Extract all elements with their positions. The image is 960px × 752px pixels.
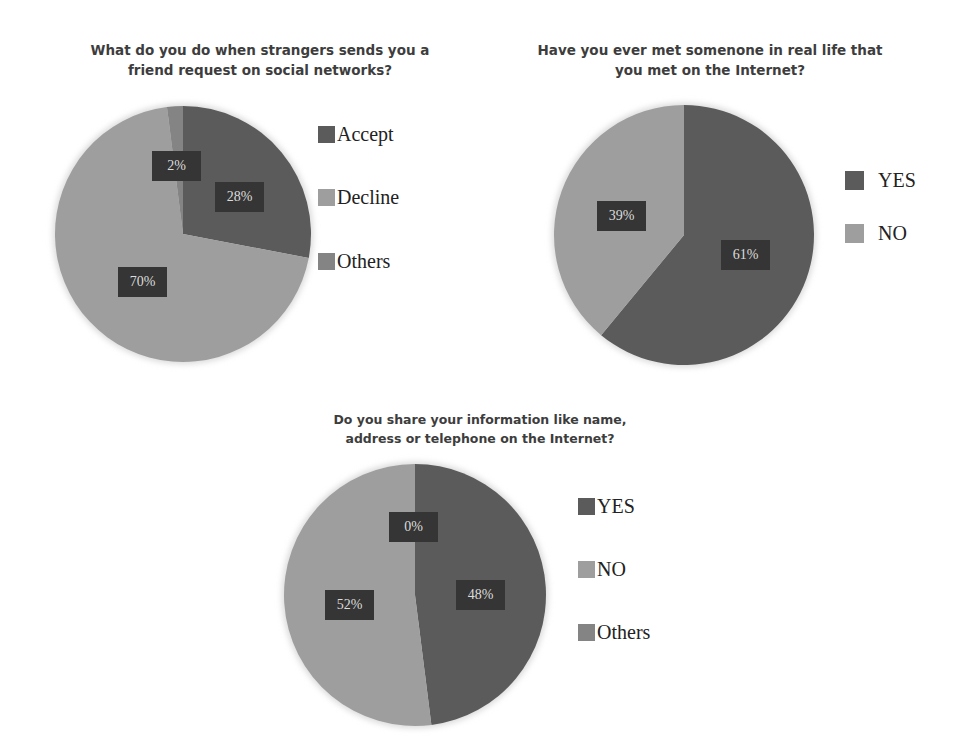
legend-label: Others bbox=[337, 250, 390, 273]
legend-swatch bbox=[318, 253, 335, 270]
data-label-decline: 70% bbox=[118, 267, 167, 297]
pie-slices bbox=[284, 464, 546, 726]
title-line: Do you share your information like name, bbox=[300, 410, 660, 429]
legend-item-others: Others bbox=[318, 250, 390, 273]
legend-swatch bbox=[318, 126, 335, 143]
data-label-others: 0% bbox=[389, 512, 438, 542]
legend-item-others: Others bbox=[578, 621, 650, 644]
title-line: Have you ever met somenone in real life … bbox=[500, 40, 920, 60]
legend-swatch bbox=[578, 498, 595, 515]
title-line: you met on the Internet? bbox=[500, 60, 920, 80]
legend-label: Accept bbox=[337, 123, 394, 146]
legend-item-accept: Accept bbox=[318, 123, 394, 146]
legend-item-no: NO bbox=[845, 222, 907, 245]
data-label-yes: 61% bbox=[721, 240, 770, 270]
legend-label: YES bbox=[878, 169, 916, 192]
legend-label: Others bbox=[597, 621, 650, 644]
pie-slices bbox=[554, 105, 814, 365]
pie-svg bbox=[0, 0, 960, 752]
legend-label: YES bbox=[597, 495, 635, 518]
legend-label: NO bbox=[597, 558, 626, 581]
data-label-others: 2% bbox=[152, 151, 201, 181]
legend-item-decline: Decline bbox=[318, 186, 399, 209]
legend-item-yes: YES bbox=[578, 495, 635, 518]
legend-swatch bbox=[578, 561, 595, 578]
legend-item-no: NO bbox=[578, 558, 626, 581]
data-label-accept: 28% bbox=[215, 182, 264, 212]
legend-item-yes: YES bbox=[845, 169, 916, 192]
pie-slices bbox=[55, 106, 311, 362]
legend-label: NO bbox=[878, 222, 907, 245]
title-line: address or telephone on the Internet? bbox=[300, 429, 660, 448]
data-label-yes: 48% bbox=[456, 580, 505, 610]
legend-swatch bbox=[845, 171, 864, 190]
chart-title: Have you ever met somenone in real life … bbox=[500, 40, 920, 80]
legend-swatch bbox=[845, 224, 864, 243]
legend-swatch bbox=[578, 624, 595, 641]
legend-label: Decline bbox=[337, 186, 399, 209]
chart-title: Do you share your information like name,… bbox=[300, 410, 660, 448]
data-label-no: 52% bbox=[325, 590, 374, 620]
legend-swatch bbox=[318, 189, 335, 206]
data-label-no: 39% bbox=[597, 201, 646, 231]
